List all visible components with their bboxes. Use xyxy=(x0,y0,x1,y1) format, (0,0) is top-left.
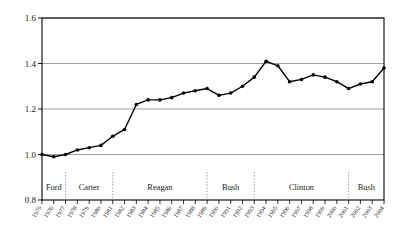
era-label: Ford xyxy=(46,183,63,192)
data-point xyxy=(252,75,256,79)
era-label: Bush xyxy=(358,183,376,192)
data-point xyxy=(288,80,292,84)
y-tick-label: 1.0 xyxy=(25,150,37,160)
data-point xyxy=(276,64,280,68)
data-point xyxy=(64,153,68,157)
data-point xyxy=(76,148,80,152)
y-tick-label: 1.4 xyxy=(25,59,37,69)
data-point xyxy=(111,135,115,139)
data-point xyxy=(135,103,139,107)
data-point xyxy=(52,155,56,159)
data-point xyxy=(194,89,198,93)
data-point xyxy=(370,80,374,84)
data-point xyxy=(40,153,44,157)
data-point xyxy=(123,128,127,132)
chart-canvas: 0.81.01.21.41.6 197519761977197819791980… xyxy=(0,0,399,243)
data-point xyxy=(300,78,304,82)
data-point xyxy=(311,73,315,77)
data-point xyxy=(229,91,233,95)
data-point xyxy=(146,98,150,102)
data-point xyxy=(359,82,363,86)
data-point xyxy=(382,66,386,70)
data-point xyxy=(347,87,351,91)
data-point xyxy=(158,98,162,102)
data-point xyxy=(264,59,268,63)
y-tick-label: 1.6 xyxy=(25,13,37,23)
data-point xyxy=(170,96,174,100)
data-point xyxy=(182,91,186,95)
data-point xyxy=(99,144,103,148)
era-label: Bush xyxy=(222,183,240,192)
data-point xyxy=(323,75,327,79)
data-point xyxy=(217,94,221,98)
data-point xyxy=(241,84,245,88)
data-point xyxy=(205,87,209,91)
era-label: Reagan xyxy=(147,183,173,192)
y-tick-label: 1.2 xyxy=(25,104,36,114)
data-point xyxy=(87,146,91,150)
era-label: Clinton xyxy=(289,183,315,192)
y-tick-label: 0.8 xyxy=(25,195,37,205)
data-point xyxy=(335,80,339,84)
line-chart: 0.81.01.21.41.6 197519761977197819791980… xyxy=(0,0,399,243)
era-label: Carter xyxy=(79,183,100,192)
